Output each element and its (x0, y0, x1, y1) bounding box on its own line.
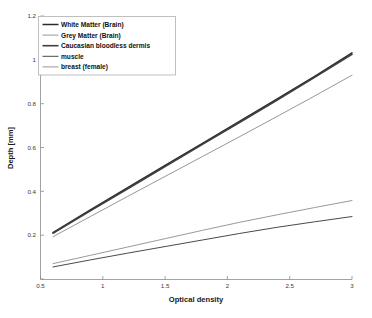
line-chart: 1.2 1 0.8 0.6 0.4 0.2 0.5 1 1.5 2 2.5 3 … (0, 0, 372, 318)
y-tick-label-0.4: 0.4 (27, 188, 36, 195)
y-tick-label-0.6: 0.6 (27, 144, 36, 151)
legend-label-0: White Matter (Brain) (61, 21, 124, 29)
y-tick-label-1.2: 1.2 (27, 12, 36, 19)
x-tick-label-2.5: 2.5 (285, 282, 294, 289)
legend-label-2: Caucasian bloodless dermis (61, 42, 150, 49)
x-tick-label-2: 2 (226, 282, 230, 289)
chart-figure: 1.2 1 0.8 0.6 0.4 0.2 0.5 1 1.5 2 2.5 3 … (0, 0, 372, 318)
legend-label-3: muscle (61, 53, 84, 60)
legend-label-1: Grey Matter (Brain) (61, 32, 121, 40)
y-axis-title: Depth [mm] (6, 126, 15, 169)
y-tick-label-1: 1 (33, 56, 37, 63)
y-tick-label-0.8: 0.8 (27, 100, 36, 107)
x-tick-label-1.5: 1.5 (161, 282, 170, 289)
legend: White Matter (Brain)Grey Matter (Brain)C… (39, 17, 176, 76)
x-axis-title: Optical density (169, 295, 224, 304)
x-tick-label-0.5: 0.5 (36, 282, 45, 289)
legend-label-4: breast (female) (61, 63, 108, 71)
y-tick-label-0.2: 0.2 (27, 231, 36, 238)
x-tick-label-3: 3 (350, 282, 354, 289)
x-tick-label-1: 1 (101, 282, 105, 289)
